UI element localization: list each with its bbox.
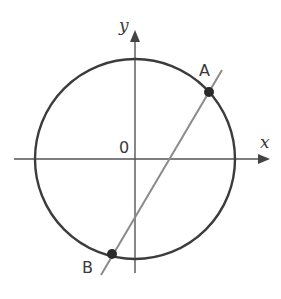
x-axis-label: x — [260, 132, 270, 152]
point-a-label: A — [199, 61, 210, 80]
coordinate-diagram: y x 0 A B — [0, 0, 281, 299]
point-b-label: B — [82, 258, 93, 277]
x-axis — [14, 154, 270, 164]
origin-label: 0 — [119, 138, 129, 157]
point-b — [107, 249, 117, 259]
secant-line — [101, 70, 222, 275]
x-axis-arrow-icon — [258, 154, 270, 164]
y-axis-arrow-icon — [130, 30, 140, 42]
y-axis — [130, 30, 140, 273]
y-axis-label: y — [118, 15, 129, 35]
point-a — [204, 87, 214, 97]
